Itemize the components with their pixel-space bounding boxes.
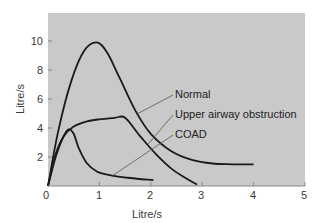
y-tick-8: 8 (37, 64, 43, 76)
label-upper-airway-obstruction: Upper airway obstruction (175, 108, 297, 120)
label-normal: Normal (175, 88, 210, 100)
y-tick-4: 4 (37, 122, 43, 134)
x-tick-1: 1 (96, 189, 102, 201)
x-tick-2: 2 (147, 189, 153, 201)
y-tick-6: 6 (37, 93, 43, 105)
x-tick-0: 0 (43, 189, 49, 201)
x-tick-5: 5 (301, 189, 307, 201)
x-tick-4: 4 (250, 189, 256, 201)
x-axis-label: Litre/s (132, 208, 162, 220)
y-tick-2: 2 (37, 151, 43, 163)
flow-volume-chart: 0 1 2 3 4 5 2 4 6 8 10 Litre/s Litre/s N… (0, 0, 324, 223)
y-axis-label: Litre/s (14, 84, 26, 114)
x-tick-3: 3 (198, 189, 204, 201)
label-coad: COAD (175, 128, 207, 140)
y-tick-10: 10 (31, 35, 43, 47)
